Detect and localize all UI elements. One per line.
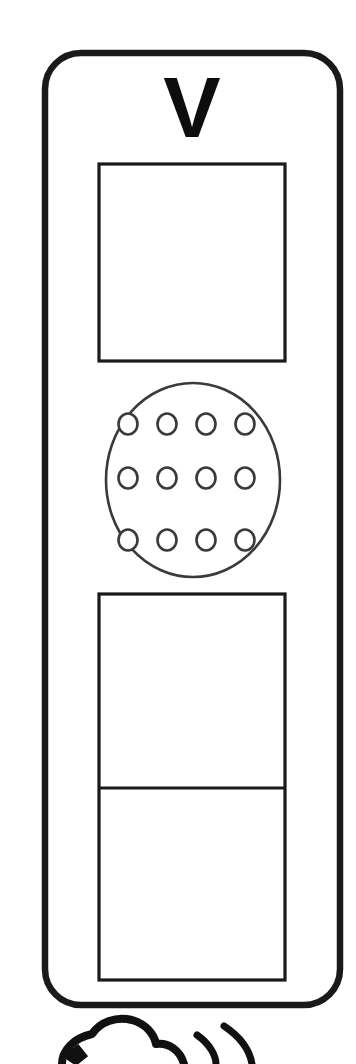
speaker-hole[interactable] — [197, 468, 216, 489]
speaker-hole[interactable] — [236, 468, 255, 489]
speaker-hole[interactable] — [158, 414, 177, 435]
illustration-canvas: V — [0, 0, 356, 1064]
speaker-hole[interactable] — [119, 414, 138, 435]
speaker-hole[interactable] — [158, 468, 177, 489]
speaker-hole[interactable] — [236, 414, 255, 435]
device-line-art-svg: V — [0, 0, 356, 1064]
display-screen[interactable] — [99, 164, 285, 361]
speaker-hole[interactable] — [119, 468, 138, 489]
speaker-hole[interactable] — [197, 414, 216, 435]
speaker-hole[interactable] — [197, 530, 216, 551]
speaker-hole[interactable] — [236, 530, 255, 551]
speaker-hole[interactable] — [158, 530, 177, 551]
brand-letter-v: V — [163, 59, 220, 155]
speaker-hole[interactable] — [119, 530, 138, 551]
